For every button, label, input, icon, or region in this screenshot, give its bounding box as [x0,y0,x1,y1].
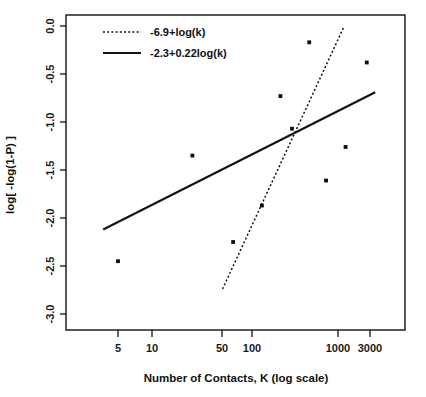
x-tick-label-5: 3000 [358,342,382,354]
y-tick-label-2: -1.0 [44,113,56,132]
x-tick-label-2: 50 [216,342,228,354]
plot-frame [66,15,405,330]
x-tick-label-1: 10 [146,342,158,354]
data-point [231,240,235,244]
data-point [324,179,328,183]
x-tick-label-0: 5 [115,342,121,354]
data-point [116,259,120,263]
data-point [279,94,283,98]
y-tick-label-5: -2.5 [44,257,56,276]
y-tick-label-1: -0.5 [44,65,56,84]
data-point [290,127,294,131]
x-axis-ticks [118,330,370,337]
x-tick-label-4: 1000 [326,342,350,354]
data-point [344,145,348,149]
data-point [260,204,264,208]
legend-label-0: -6.9+log(k) [150,26,206,38]
y-tick-label-0: 0.0 [44,18,56,33]
fit-line-dotted [223,27,344,289]
scatter-chart: 0.0 -0.5 -1.0 -1.5 -2.0 -2.5 -3.0 5 10 5… [0,0,426,397]
data-point [191,154,195,158]
y-tick-label-6: -3.0 [44,305,56,324]
fit-lines-group [103,27,375,289]
y-axis-ticks [60,26,66,314]
y-axis-title: log[ -log(1-P) ] [4,136,16,214]
y-tick-label-4: -2.0 [44,209,56,228]
y-axis-tick-labels: 0.0 -0.5 -1.0 -1.5 -2.0 -2.5 -3.0 [44,18,56,323]
x-tick-label-3: 100 [243,342,261,354]
data-points-group [116,40,369,263]
legend-label-1: -2.3+0.22log(k) [150,47,227,59]
data-point [307,40,311,44]
legend: -6.9+log(k) -2.3+0.22log(k) [103,26,227,59]
y-tick-label-3: -1.5 [44,161,56,180]
x-axis-title: Number of Contacts, K (log scale) [144,372,329,384]
chart-page: 0.0 -0.5 -1.0 -1.5 -2.0 -2.5 -3.0 5 10 5… [0,0,426,397]
x-axis-tick-labels: 5 10 50 100 1000 3000 [115,342,382,354]
data-point [365,61,369,65]
fit-line-solid [103,92,375,229]
